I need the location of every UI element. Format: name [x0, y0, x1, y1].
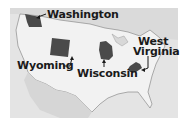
label-wisconsin: Wisconsin	[77, 68, 138, 79]
state-wyoming	[50, 38, 70, 57]
label-west-virginia-line2: Virginia	[133, 46, 180, 57]
label-washington: Washington	[47, 9, 119, 20]
label-wyoming: Wyoming	[17, 60, 73, 71]
